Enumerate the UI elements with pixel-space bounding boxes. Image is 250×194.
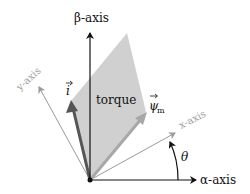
- svg-text:i: i: [66, 84, 70, 98]
- diagram-canvas: β-axis α-axis y-axis x-axis torque i ψ m…: [0, 0, 250, 194]
- theta-arc: [170, 142, 178, 180]
- alpha-axis-label: α-axis: [200, 173, 236, 187]
- svg-text:m: m: [157, 106, 165, 115]
- y-axis-label: y-axis: [13, 65, 43, 93]
- torque-label: torque: [96, 93, 136, 107]
- flux-vector-label: ψ m: [149, 94, 165, 115]
- theta-label: θ: [181, 150, 189, 164]
- beta-axis-label: β-axis: [74, 11, 109, 25]
- current-vector-label: i: [66, 81, 73, 98]
- x-axis-label: x-axis: [177, 108, 208, 131]
- origin-point: [88, 178, 93, 183]
